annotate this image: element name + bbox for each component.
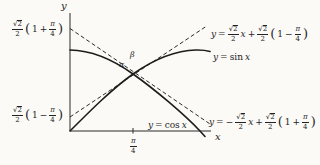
cos-curve-label: y = cos x bbox=[148, 121, 187, 130]
y-axis-label: y bbox=[61, 1, 67, 11]
angle-beta-label: β bbox=[130, 51, 135, 59]
sin-curve bbox=[70, 50, 210, 131]
equation-tangent-to-sin: y = √2 2 x + √2 2 ( 1 − π 4 ) bbox=[211, 25, 308, 43]
y-intercept-label-lower: √2 2 ( 1 − π 4 ) bbox=[12, 106, 63, 124]
tangent-to-sin-line bbox=[70, 27, 206, 118]
x-axis-label: x bbox=[215, 132, 221, 142]
y-intercept-label-upper: √2 2 ( 1 + π 4 ) bbox=[12, 20, 63, 38]
equation-tangent-to-cos: y = − √2 2 x + √2 2 ( 1 + π 4 ) bbox=[209, 113, 316, 131]
angle-alpha-label: α bbox=[119, 61, 124, 69]
pi-over-4-tick-label: π 4 bbox=[130, 138, 137, 155]
pi-symbol: π bbox=[131, 138, 136, 145]
sin-curve-label: y = sin x bbox=[213, 53, 250, 62]
figure-canvas: y x π 4 √2 2 ( 1 + π 4 ) √2 2 ( 1 − π bbox=[0, 0, 320, 165]
